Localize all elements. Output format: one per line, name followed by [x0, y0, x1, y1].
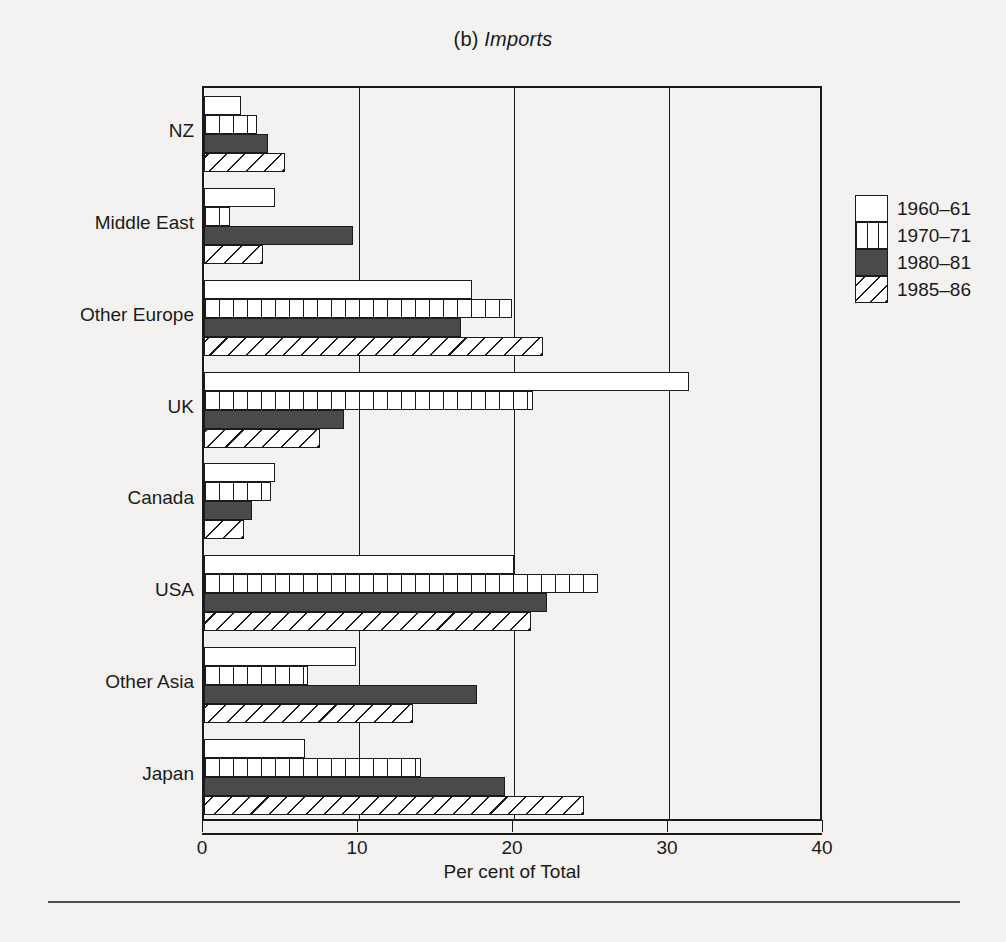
x-tick-label: 20: [482, 837, 542, 859]
bar: [204, 134, 268, 153]
bar: [204, 796, 584, 815]
y-axis-label-middle-east: Middle East: [0, 212, 194, 234]
chart-title-emphasis: Imports: [484, 28, 552, 50]
legend-swatch-diagonal-hatch: [855, 276, 888, 303]
bar: [204, 482, 271, 501]
bar: [204, 207, 230, 226]
bar: [204, 115, 257, 134]
legend-item: 1980–81: [855, 249, 971, 276]
x-tick-mark: [822, 820, 823, 832]
legend-label: 1970–71: [897, 225, 971, 247]
bar-group: [204, 364, 820, 456]
bar-group: [204, 88, 820, 180]
x-tick-label: 0: [172, 837, 232, 859]
x-tick-mark: [202, 820, 203, 832]
legend-swatch-white-empty: [855, 195, 888, 222]
bar: [204, 245, 263, 264]
bar: [204, 188, 275, 207]
y-axis-label-other-asia: Other Asia: [0, 671, 194, 693]
bar-group: [204, 731, 820, 823]
bar: [204, 391, 533, 410]
y-axis-label-uk: UK: [0, 396, 194, 418]
legend-swatch-vertical-hatch: [855, 222, 888, 249]
bar: [204, 739, 305, 758]
y-axis-label-usa: USA: [0, 579, 194, 601]
chart-title: (b) Imports: [0, 28, 1006, 51]
chart-legend: 1960–611970–711980–811985–86: [855, 195, 971, 303]
bar-group: [204, 547, 820, 639]
chart-title-prefix: (b): [454, 28, 485, 50]
bar: [204, 593, 547, 612]
x-tick-mark: [667, 820, 668, 832]
bar: [204, 758, 421, 777]
y-axis-label-japan: Japan: [0, 763, 194, 785]
legend-label: 1980–81: [897, 252, 971, 274]
legend-item: 1970–71: [855, 222, 971, 249]
bar: [204, 299, 512, 318]
legend-label: 1985–86: [897, 279, 971, 301]
x-tick-mark: [512, 820, 513, 832]
x-tick-mark: [357, 820, 358, 832]
legend-swatch-dark-gray-solid: [855, 249, 888, 276]
bar: [204, 666, 308, 685]
imports-bar-chart-figure: (b) Imports 010203040 Per cent of Total …: [0, 0, 1006, 942]
bar: [204, 372, 689, 391]
y-axis-label-nz: NZ: [0, 120, 194, 142]
bar: [204, 704, 413, 723]
bar: [204, 463, 275, 482]
bar: [204, 574, 598, 593]
bar: [204, 501, 252, 520]
bar: [204, 520, 244, 539]
legend-item: 1985–86: [855, 276, 971, 303]
bar: [204, 96, 241, 115]
plot-area: [202, 86, 822, 821]
bar: [204, 429, 320, 448]
bar: [204, 337, 543, 356]
bar: [204, 280, 472, 299]
bar-group: [204, 639, 820, 731]
x-axis-line: [202, 833, 822, 835]
legend-label: 1960–61: [897, 198, 971, 220]
bar: [204, 612, 531, 631]
bar-group: [204, 180, 820, 272]
x-tick-label: 10: [327, 837, 387, 859]
x-tick-label: 30: [637, 837, 697, 859]
x-axis-title: Per cent of Total: [202, 861, 822, 883]
bar: [204, 226, 353, 245]
bar: [204, 647, 356, 666]
y-axis-label-other-europe: Other Europe: [0, 304, 194, 326]
bar: [204, 555, 514, 574]
bar-group: [204, 456, 820, 548]
legend-item: 1960–61: [855, 195, 971, 222]
x-tick-label: 40: [792, 837, 852, 859]
bar: [204, 410, 344, 429]
bottom-divider-rule: [48, 901, 960, 903]
bar: [204, 685, 477, 704]
bar: [204, 777, 505, 796]
bar: [204, 318, 461, 337]
y-axis-label-canada: Canada: [0, 487, 194, 509]
bar-group: [204, 272, 820, 364]
bar: [204, 153, 285, 172]
